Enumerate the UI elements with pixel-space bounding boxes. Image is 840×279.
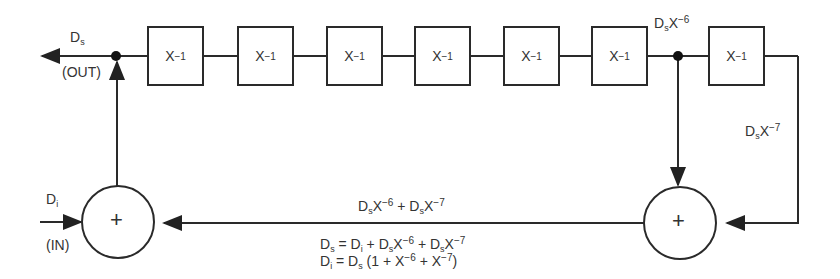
output-signal-label: Ds [70,29,85,47]
input-adder-plus: + [110,207,123,233]
feedback-sum-label: DsX−6 + DsX−7 [358,197,445,216]
delay-element-5: X−1 [503,26,560,86]
equation-input: Di = Ds (1 + X−6 + X−7) [320,250,457,274]
feedback-adder-plus: + [672,208,685,234]
tap7-label: DsX−7 [745,122,780,141]
tap6-junction-dot [673,51,683,61]
tap6-label: DsX−6 [654,14,689,33]
delay-element-7: X−1 [708,26,765,86]
delay-element-4: X−1 [414,26,471,86]
delay-element-2: X−1 [237,26,294,86]
output-tag: (OUT) [62,64,101,80]
delay-element-6: X−1 [591,26,648,86]
input-signal-label: Di [46,191,58,209]
output-junction-dot [111,51,121,61]
delay-element-1: X−1 [147,26,204,86]
delay-element-3: X−1 [326,26,383,86]
input-tag: (IN) [46,237,69,253]
